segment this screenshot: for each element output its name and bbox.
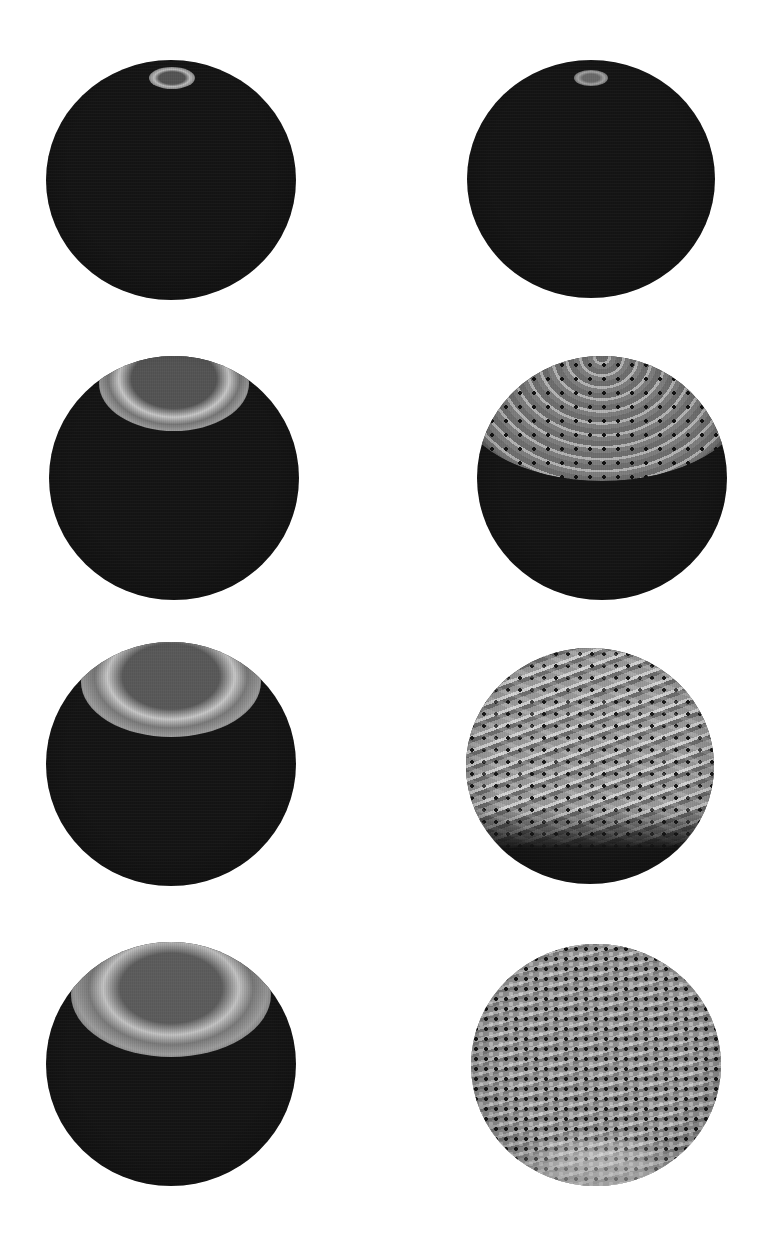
sphere-panel-row3-left xyxy=(46,642,296,886)
sphere-shading xyxy=(46,60,296,300)
sphere-panel-row1-right xyxy=(467,60,715,298)
polar-ring-bands xyxy=(81,642,261,737)
polar-spot-highlight xyxy=(574,70,608,86)
noise-texture xyxy=(46,60,296,300)
lattice-stripe-overlay xyxy=(466,648,714,884)
polar-ring-bands xyxy=(99,356,249,431)
polar-ring-highlight xyxy=(149,67,195,89)
bottom-rim-highlight xyxy=(501,1136,691,1186)
sphere-shading xyxy=(467,60,715,298)
sphere-panel-row1-left xyxy=(46,60,296,300)
sphere-panel-row2-left xyxy=(49,356,299,600)
sphere-panel-row3-right xyxy=(466,648,714,884)
polar-ring-bands xyxy=(71,942,271,1057)
sphere-panel-row4-right xyxy=(471,944,721,1186)
sphere-panel-row4-left xyxy=(46,942,296,1186)
noise-texture xyxy=(467,60,715,298)
sphere-panel-row2-right xyxy=(477,356,727,600)
lattice-cap-pattern xyxy=(477,356,727,481)
